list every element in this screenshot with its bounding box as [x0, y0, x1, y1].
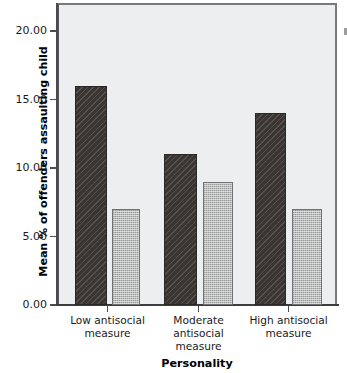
x-tick-mark: [198, 306, 200, 312]
bar-dark-series-1: [164, 154, 197, 305]
x-axis-title: Personality: [57, 357, 337, 370]
x-category-label: Low antisocial measure: [58, 314, 158, 340]
bar-dark-series-2: [255, 113, 286, 305]
bar-light-series-0: [112, 209, 140, 305]
bar-series-layer: [0, 0, 347, 305]
x-tick-mark: [288, 306, 290, 312]
bar-chart-figure: Mean % of offenders assaulting child 0.0…: [0, 0, 347, 373]
bar-light-series-2: [292, 209, 322, 305]
bar-light-series-1: [203, 182, 233, 305]
x-category-label: High antisocial measure: [239, 314, 339, 340]
bar-dark-series-0: [75, 86, 107, 305]
x-category-label: Moderate antisocial measure: [149, 314, 249, 353]
x-tick-mark: [107, 306, 109, 312]
